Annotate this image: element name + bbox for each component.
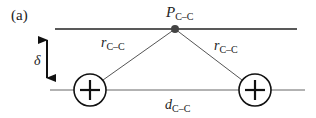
diagram-canvas: (a) PC–C rC–C rC–C δ dC–C <box>0 0 316 118</box>
point-p-marker <box>171 25 179 33</box>
left-distance-label: rC–C <box>101 35 125 52</box>
point-p-label: PC–C <box>165 4 194 22</box>
panel-label: (a) <box>11 7 28 24</box>
left-charge-icon <box>74 74 106 106</box>
right-distance-label: rC–C <box>214 38 238 55</box>
geometry-diagram: (a) PC–C rC–C rC–C δ dC–C <box>0 0 316 118</box>
height-label: δ <box>34 53 41 68</box>
left-distance-line <box>103 29 175 80</box>
separation-label: dC–C <box>165 97 191 114</box>
right-charge-icon <box>239 74 271 106</box>
